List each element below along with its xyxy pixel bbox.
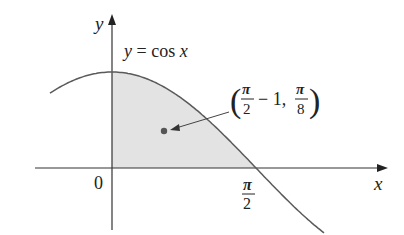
figure: y x 0 y = cos x π 2 ( π 2 − 1, π 8 ): [0, 0, 404, 235]
point-label-y-numerator: π: [296, 81, 305, 97]
equation-label: y = cos x: [122, 41, 188, 61]
y-axis-arrow-icon: [108, 14, 116, 25]
pi-over-2-denominator: 2: [243, 195, 251, 212]
y-axis-label: y: [93, 13, 104, 34]
point-label-y-denominator: 8: [297, 101, 305, 117]
point-label-open-paren: (: [230, 82, 241, 120]
point-label-x-numerator: π: [242, 81, 251, 97]
origin-label: 0: [94, 173, 103, 193]
centroid-point: [161, 128, 167, 134]
point-label-x-denominator: 2: [243, 101, 251, 117]
point-label-close-paren: ): [309, 82, 320, 120]
cosine-graph: y x 0 y = cos x π 2 ( π 2 − 1, π 8 ): [0, 0, 404, 235]
x-axis-arrow-icon: [377, 164, 388, 172]
pi-over-2-numerator: π: [243, 176, 253, 193]
x-axis-label: x: [373, 173, 383, 194]
point-label-x-suffix: − 1,: [258, 89, 286, 109]
